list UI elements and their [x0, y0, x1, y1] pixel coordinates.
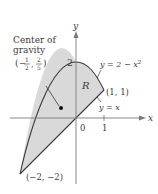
x-axis-arrow-icon	[139, 116, 146, 121]
y-axis-label: y	[72, 21, 79, 31]
y-tick-label: 2	[67, 58, 73, 68]
svg-text:,: ,	[31, 60, 34, 69]
centroid-y-denominator: 5	[37, 64, 41, 71]
centroid-point	[59, 106, 63, 110]
centroid-x-denominator: 2	[25, 64, 29, 71]
centroid-title-line1: Center of	[13, 35, 57, 45]
svg-text:(: (	[15, 58, 19, 68]
centroid-y-numerator: 2	[37, 56, 41, 63]
y-axis-arrow-icon	[74, 31, 79, 38]
centroid-x-numerator: 1	[25, 56, 29, 63]
line-label: y = x	[98, 103, 120, 112]
region-label: R	[81, 80, 90, 91]
origin-label: 0	[80, 123, 85, 133]
diagram: y x 0 1 2 y = 2 − x2 y = x R (1, 1) (−2,…	[0, 0, 158, 194]
svg-text:): )	[43, 58, 47, 68]
point-label-1-1: (1, 1)	[106, 87, 129, 97]
x-tick-label: 1	[102, 123, 107, 133]
centroid-title-line2: gravity	[13, 45, 46, 55]
x-axis-label: x	[148, 113, 153, 123]
parabola-label-leader	[97, 70, 101, 78]
line-label-leader	[97, 97, 101, 102]
parabola-label: y = 2 − x2	[99, 59, 142, 69]
point-label-neg2-neg2: (−2, −2)	[26, 172, 63, 182]
centroid-coordinates: ( − 1 2 , 2 5 )	[15, 56, 47, 71]
